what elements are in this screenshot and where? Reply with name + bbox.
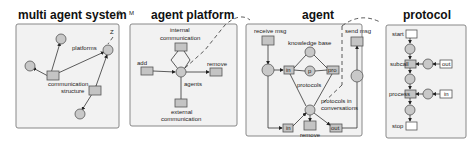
label-receive-msg: receive msg [254, 28, 286, 34]
label-protocols-in: protocols in [321, 98, 352, 104]
panel-agent-platform: agent platform internal communication ad… [130, 8, 250, 126]
zoom-marker-m: M [129, 10, 134, 16]
label-knowledge-base: knowledge base [288, 40, 332, 46]
label-in-bottom: in [286, 125, 291, 131]
panel-title-protocol: protocol [403, 8, 451, 22]
panel-title-platform: agent platform [151, 8, 234, 22]
label-remove-agent: remove [300, 132, 321, 138]
comm-transition-1 [47, 71, 59, 80]
label-stop: stop [392, 123, 404, 129]
remove-transition-agent [304, 121, 316, 130]
received-place [262, 64, 274, 76]
label-in-top: in [286, 67, 291, 73]
agents-place [176, 67, 186, 77]
label-send-msg: send msg [345, 28, 371, 34]
add-transition [141, 67, 153, 75]
external-comm-transition [175, 99, 187, 107]
label-conversations: conversations [321, 105, 358, 111]
protocol-place-3 [405, 105, 415, 115]
process-place [423, 89, 433, 99]
panel-agent: agent receive msg send msg k [246, 8, 380, 138]
zoom-marker-z: Z [110, 29, 114, 35]
label-process: process [389, 91, 410, 97]
label-in-port: in [444, 91, 449, 97]
label-out-port: out [442, 61, 451, 67]
panel-title-agent: agent [302, 8, 334, 22]
label-add: add [137, 60, 147, 66]
diagram-canvas: multi agent system platforms communicati… [0, 0, 471, 147]
label-internal: internal [170, 27, 190, 33]
send-msg-transition [351, 37, 363, 46]
label-out: out [331, 125, 340, 131]
subcall-place [423, 59, 433, 69]
label-structure: structure [61, 88, 85, 94]
knowledge-base-place [305, 47, 315, 57]
label-external: external [171, 109, 192, 115]
label-external-communication: communication [161, 116, 201, 122]
label-platforms: platforms [72, 45, 97, 51]
platform-node-p2 [56, 34, 66, 44]
start-transition [406, 30, 417, 38]
platform-node-p3 [25, 61, 35, 71]
protocol-place-2 [405, 74, 415, 84]
protocol-place-1 [405, 44, 415, 54]
label-remove: remove [207, 61, 228, 67]
label-communication: communication [48, 81, 88, 87]
internal-comm-transition [175, 43, 187, 51]
label-agents: agents [184, 81, 202, 87]
label-internal-communication: communication [160, 35, 200, 41]
label-subcall: subcall [390, 61, 409, 67]
comm-transition-2 [89, 86, 101, 95]
receive-msg-transition [262, 36, 274, 45]
conversations-place [305, 105, 315, 115]
label-pro: pro [328, 67, 337, 73]
panel-protocol: protocol start subcall out process in st… [386, 8, 466, 138]
remove-transition [210, 68, 222, 76]
platform-node-p4 [75, 109, 85, 119]
label-start: start [392, 31, 404, 37]
label-protocols: protocols [297, 82, 321, 88]
stop-transition [406, 122, 417, 130]
panel-title-mas: multi agent system [18, 8, 127, 22]
platform-node-p1 [103, 45, 113, 55]
panel-multi-agent-system: multi agent system platforms communicati… [16, 8, 134, 128]
send-place [351, 70, 363, 82]
